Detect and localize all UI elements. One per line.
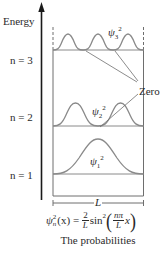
psi3-squared-label: ψ32 — [108, 26, 122, 41]
psi2-squared-label: ψ22 — [92, 105, 106, 120]
psi3-squared-curve — [53, 34, 144, 50]
level-3-label: n = 3 — [10, 55, 33, 66]
level-1-label: n = 1 — [10, 170, 33, 181]
energy-axis-label: Energy — [3, 16, 35, 27]
level-2-label: n = 2 — [10, 112, 33, 123]
probability-equation: ψ2n (x) = 2L sin2 ( nπL x ) — [46, 211, 136, 230]
figure-caption: The probabilities — [0, 235, 166, 246]
box-width-label: L — [94, 197, 102, 208]
energy-axis — [38, 2, 44, 200]
arrow-up-icon — [38, 2, 44, 12]
psi1-squared-label: ψ12 — [90, 155, 104, 170]
zero-label: Zero — [139, 86, 160, 97]
